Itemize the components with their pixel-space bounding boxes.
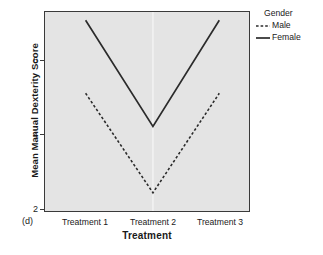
plot-lines [45, 12, 249, 211]
legend: Gender Male Female [256, 8, 322, 44]
x-axis-title: Treatment [44, 230, 250, 241]
x-tick-label-treatment-3: Treatment 3 [197, 216, 243, 228]
plot-area [44, 11, 250, 212]
x-axis: Treatment 1 Treatment 2 Treatment 3 [0, 216, 323, 230]
dashed-line-icon [256, 22, 270, 30]
legend-item-male: Male [256, 20, 322, 31]
y-axis-title: Mean Manual Dexterity Score [29, 11, 40, 211]
solid-line-icon [256, 34, 270, 42]
legend-title: Gender [264, 8, 322, 19]
legend-item-female: Female [256, 32, 322, 43]
chart-figure: 2 4 6 Mean Manual Dexterity Score Treatm… [0, 0, 323, 255]
x-tick-label-treatment-1: Treatment 1 [62, 216, 108, 228]
legend-label-female: Female [272, 32, 301, 43]
x-tick-label-treatment-2: Treatment 2 [130, 216, 176, 228]
legend-label-male: Male [272, 20, 291, 31]
panel-label: (d) [22, 216, 33, 226]
